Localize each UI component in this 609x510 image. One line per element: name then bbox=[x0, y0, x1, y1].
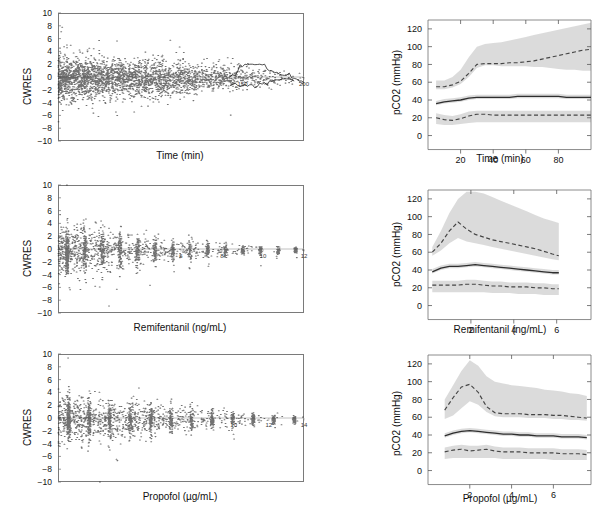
panel-cwres-time: CWRES −10−8−6−4−20246810150200 Time (min… bbox=[0, 0, 310, 172]
svg-text:−6: −6 bbox=[42, 451, 52, 461]
svg-text:10: 10 bbox=[43, 8, 53, 18]
axis-label-cwres-remi-x: Remifentanil (ng/mL) bbox=[100, 322, 260, 333]
svg-text:−8: −8 bbox=[42, 464, 52, 474]
axis-label-cwres-prop-x: Propofol (µg/mL) bbox=[110, 491, 250, 502]
svg-text:12: 12 bbox=[301, 253, 308, 259]
svg-text:10: 10 bbox=[43, 349, 53, 359]
svg-text:10: 10 bbox=[230, 422, 237, 428]
cwres-propofol-scatter: −10−8−6−4−20246810101214 bbox=[0, 341, 310, 510]
svg-text:60: 60 bbox=[412, 247, 422, 257]
axis-label-pco2-prop-x: Propofol (µg/mL) bbox=[425, 493, 575, 504]
panel-cwres-propofol: CWRES −10−8−6−4−20246810101214 Propofol … bbox=[0, 341, 310, 510]
svg-text:−10: −10 bbox=[38, 477, 53, 487]
svg-text:−2: −2 bbox=[42, 257, 52, 267]
svg-text:80: 80 bbox=[412, 395, 422, 405]
svg-text:120: 120 bbox=[407, 194, 422, 204]
svg-text:−4: −4 bbox=[42, 439, 52, 449]
svg-text:120: 120 bbox=[407, 359, 422, 369]
svg-text:60: 60 bbox=[412, 412, 422, 422]
axis-label-cwres-time-x: Time (min) bbox=[120, 150, 240, 161]
svg-text:10: 10 bbox=[260, 253, 267, 259]
svg-text:150: 150 bbox=[237, 81, 248, 87]
svg-text:8: 8 bbox=[47, 193, 52, 203]
svg-text:8: 8 bbox=[47, 21, 52, 31]
svg-text:14: 14 bbox=[301, 422, 308, 428]
cwres-time-scatter: −10−8−6−4−20246810150200 bbox=[0, 0, 310, 172]
svg-text:−6: −6 bbox=[42, 282, 52, 292]
svg-text:80: 80 bbox=[412, 230, 422, 240]
svg-text:−2: −2 bbox=[42, 426, 52, 436]
svg-text:−8: −8 bbox=[42, 123, 52, 133]
svg-text:2: 2 bbox=[47, 59, 52, 69]
svg-text:−10: −10 bbox=[38, 308, 53, 318]
svg-text:60: 60 bbox=[412, 77, 422, 87]
pco2-propofol-plot: 020406080100120246 bbox=[380, 341, 609, 510]
svg-text:6: 6 bbox=[47, 206, 52, 216]
svg-text:120: 120 bbox=[407, 24, 422, 34]
axis-label-pco2-time-x: Time (min) bbox=[440, 153, 560, 164]
panel-cwres-remifentanil: CWRES −10−8−6−4−20246810681012 Remifenta… bbox=[0, 172, 310, 341]
svg-text:40: 40 bbox=[412, 265, 422, 275]
svg-text:4: 4 bbox=[47, 46, 52, 56]
svg-text:2: 2 bbox=[47, 231, 52, 241]
svg-text:10: 10 bbox=[43, 180, 53, 190]
cwres-remifentanil-scatter: −10−8−6−4−20246810681012 bbox=[0, 172, 310, 341]
svg-text:0: 0 bbox=[47, 244, 52, 254]
svg-text:−2: −2 bbox=[42, 85, 52, 95]
svg-text:100: 100 bbox=[407, 212, 422, 222]
svg-text:6: 6 bbox=[47, 375, 52, 385]
svg-text:40: 40 bbox=[412, 430, 422, 440]
pco2-time-plot: 02040608010012020406080 bbox=[380, 0, 609, 172]
svg-text:20: 20 bbox=[412, 283, 422, 293]
svg-text:12: 12 bbox=[266, 422, 273, 428]
svg-text:8: 8 bbox=[47, 362, 52, 372]
svg-text:−10: −10 bbox=[38, 136, 53, 146]
axis-label-pco2-remi-x: Remifentanil (ng/mL) bbox=[420, 324, 580, 335]
svg-text:0: 0 bbox=[47, 72, 52, 82]
svg-text:0: 0 bbox=[417, 131, 422, 141]
panel-pco2-propofol: pCO2 (mmHg) 020406080100120246 Propofol … bbox=[380, 341, 609, 510]
svg-text:100: 100 bbox=[407, 42, 422, 52]
pco2-remifentanil-plot: 020406080100120246 bbox=[380, 172, 609, 341]
svg-text:20: 20 bbox=[412, 113, 422, 123]
svg-text:40: 40 bbox=[412, 95, 422, 105]
svg-text:4: 4 bbox=[47, 387, 52, 397]
svg-text:0: 0 bbox=[417, 466, 422, 476]
svg-text:−6: −6 bbox=[42, 110, 52, 120]
svg-text:100: 100 bbox=[407, 377, 422, 387]
svg-text:6: 6 bbox=[179, 253, 183, 259]
svg-text:−4: −4 bbox=[42, 98, 52, 108]
svg-text:20: 20 bbox=[412, 448, 422, 458]
svg-text:6: 6 bbox=[47, 34, 52, 44]
svg-text:200: 200 bbox=[299, 81, 310, 87]
svg-text:−8: −8 bbox=[42, 295, 52, 305]
svg-text:2: 2 bbox=[47, 400, 52, 410]
figure-canvas: CWRES −10−8−6−4−20246810150200 Time (min… bbox=[0, 0, 609, 510]
svg-text:80: 80 bbox=[412, 60, 422, 70]
panel-pco2-remifentanil: pCO2 (mmHg) 020406080100120246 Remifenta… bbox=[380, 172, 609, 341]
panel-pco2-time: pCO2 (mmHg) 02040608010012020406080 Time… bbox=[380, 0, 609, 172]
svg-text:0: 0 bbox=[417, 301, 422, 311]
svg-text:−4: −4 bbox=[42, 270, 52, 280]
svg-text:4: 4 bbox=[47, 218, 52, 228]
svg-text:0: 0 bbox=[47, 413, 52, 423]
